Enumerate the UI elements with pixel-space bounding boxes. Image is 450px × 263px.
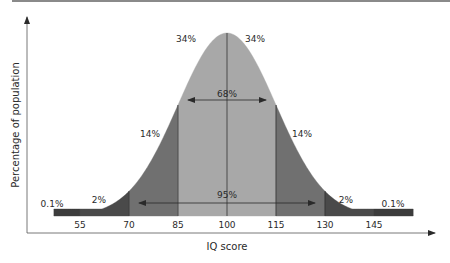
x-tick-label: 85 (172, 220, 183, 230)
span-label-95-percent: 95% (217, 190, 237, 200)
region-left-tail (54, 209, 80, 216)
x-tick-label: 70 (123, 220, 135, 230)
region-label-right-1sd: 14% (292, 129, 312, 139)
region-right-1sd (276, 105, 325, 216)
x-tick-label: 145 (365, 220, 382, 230)
span-label-68-percent: 68% (217, 89, 237, 99)
x-tick-label: 100 (218, 220, 235, 230)
region-label-right-tail: 0.1% (382, 199, 405, 209)
region-label-right-center: 34% (245, 34, 265, 44)
regions-layer (54, 33, 413, 216)
region-label-left-2sd: 2% (92, 195, 107, 205)
x-tick-label: 55 (74, 220, 85, 230)
region-left-center (178, 33, 227, 216)
region-label-left-tail: 0.1% (41, 199, 64, 209)
region-left-1sd (129, 105, 178, 216)
x-tick-label: 115 (267, 220, 284, 230)
y-axis-title: Percentage of population (10, 62, 21, 187)
iq-distribution-chart: 68%95%0.1%2%14%34%34%14%2%0.1% 557085100… (0, 0, 450, 263)
region-label-left-1sd: 14% (140, 129, 160, 139)
ticks-layer: 557085100115130145 (74, 220, 382, 230)
region-right-center (227, 33, 276, 216)
region-label-right-2sd: 2% (339, 195, 354, 205)
region-label-left-center: 34% (176, 34, 196, 44)
x-axis-title: IQ score (207, 241, 248, 252)
x-tick-label: 130 (316, 220, 333, 230)
region-right-tail (374, 209, 413, 216)
